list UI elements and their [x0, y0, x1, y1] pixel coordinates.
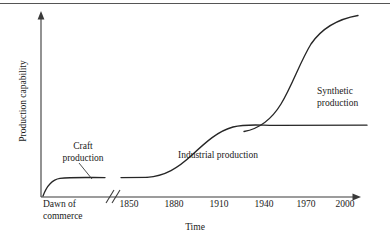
annotation-craft-production: Craft production: [47, 141, 119, 164]
x-axis-label: Time: [0, 222, 390, 232]
annotation-synthetic-production: Synthetic production: [317, 86, 385, 109]
curve-synthetic-production: [244, 16, 358, 132]
x-tick-label-1970: 1970: [284, 199, 328, 209]
craft-label-line2: production: [47, 153, 119, 165]
craft-label-leader-line: [79, 163, 92, 179]
craft-label-line1: Craft: [47, 141, 119, 153]
x-tick-label-1850: 1850: [107, 199, 151, 209]
x-axis-origin-label: Dawn of commerce: [43, 199, 83, 222]
x-tick-label-1940: 1940: [242, 199, 286, 209]
chart-figure: Production capability Time Dawn of comme…: [0, 0, 390, 245]
x-tick-label-1910: 1910: [197, 199, 241, 209]
synthetic-label-line1: Synthetic: [317, 86, 385, 98]
y-axis-label: Production capability: [18, 41, 28, 161]
annotation-industrial-production: Industrial production: [178, 150, 258, 160]
origin-label-line1: Dawn of: [43, 199, 83, 211]
synthetic-label-line2: production: [317, 98, 385, 110]
x-tick-label-2000: 2000: [323, 199, 367, 209]
x-tick-label-1880: 1880: [152, 199, 196, 209]
origin-label-line2: commerce: [43, 211, 83, 223]
y-axis-arrowhead: [38, 11, 45, 20]
curve-craft-production: [43, 177, 105, 196]
